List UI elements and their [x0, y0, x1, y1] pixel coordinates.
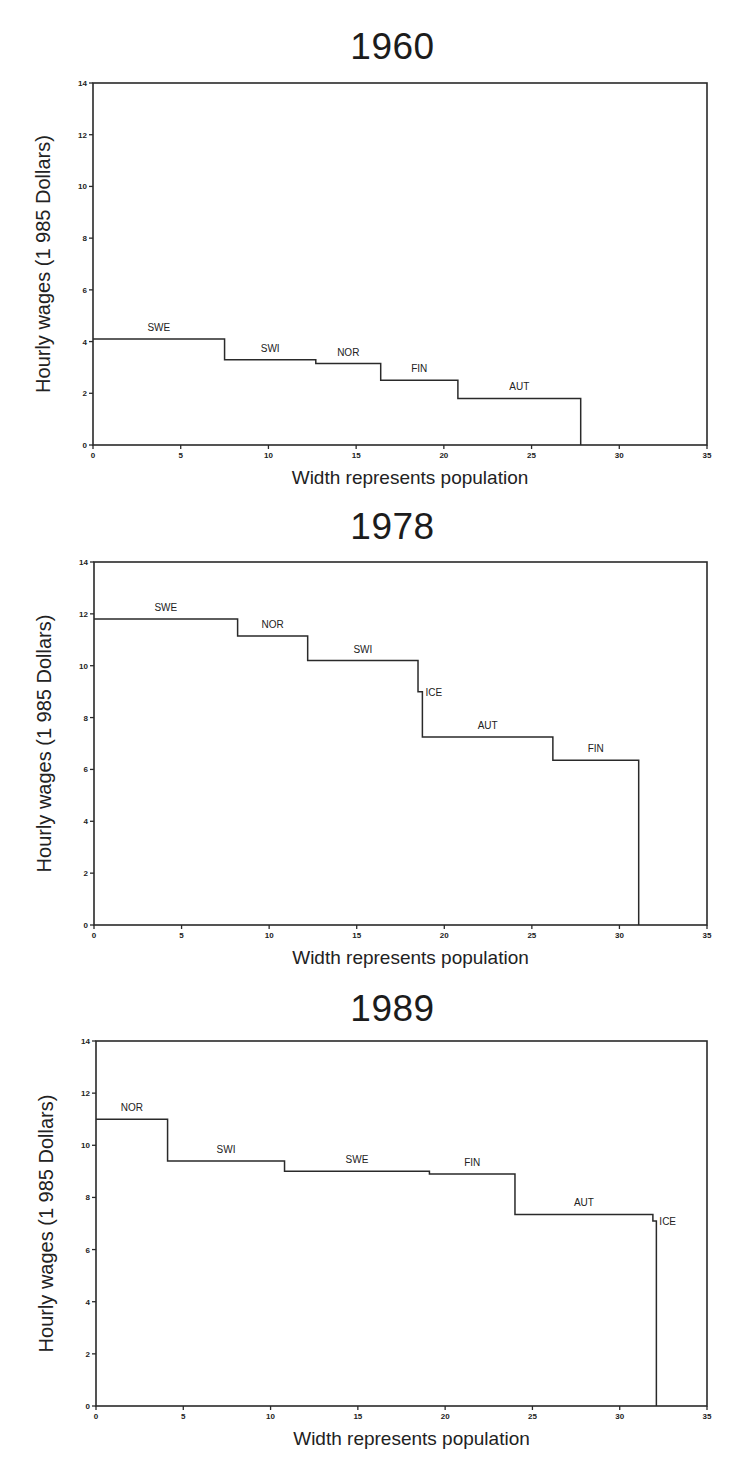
x-tick-label: 35	[703, 451, 712, 460]
x-axis: 05101520253035	[94, 1406, 712, 1421]
x-tick-label: 5	[179, 931, 184, 940]
y-tick-label: 14	[79, 558, 88, 567]
segment-label-swe: SWE	[154, 602, 177, 613]
x-tick-label: 20	[440, 931, 449, 940]
y-tick-label: 4	[84, 817, 89, 826]
y-tick-label: 0	[83, 441, 88, 450]
x-tick-label: 0	[91, 451, 96, 460]
plot-frame	[93, 83, 707, 445]
x-tick-label: 5	[181, 1412, 186, 1421]
chart-panel-1989: 1989 0246810121405101520253035Hourly wag…	[0, 961, 733, 1461]
x-tick-label: 25	[527, 451, 536, 460]
y-tick-label: 8	[83, 234, 88, 243]
y-tick-label: 6	[84, 765, 89, 774]
y-tick-label: 4	[86, 1298, 91, 1307]
y-tick-label: 14	[78, 79, 87, 88]
wage-step-line	[96, 1119, 656, 1406]
segment-label-nor: NOR	[121, 1102, 143, 1113]
segment-label-aut: AUT	[478, 720, 498, 731]
chart-panel-1960: 1960 0246810121405101520253035Hourly wag…	[0, 0, 733, 490]
step-chart-svg: 0246810121405101520253035Hourly wages (1…	[0, 480, 733, 970]
x-tick-label: 20	[439, 451, 448, 460]
step-chart-svg: 0246810121405101520253035Hourly wages (1…	[0, 0, 733, 490]
segment-label-nor: NOR	[262, 619, 284, 630]
y-axis-label: Hourly wages (1 985 Dollars)	[35, 1095, 57, 1353]
x-tick-label: 35	[703, 1412, 712, 1421]
segment-label-swi: SWI	[353, 644, 372, 655]
segment-label-fin: FIN	[464, 1157, 480, 1168]
y-tick-label: 10	[78, 182, 87, 191]
y-tick-label: 2	[83, 389, 88, 398]
x-axis-label: Width represents population	[293, 1428, 530, 1449]
y-tick-label: 0	[84, 921, 89, 930]
y-tick-label: 2	[86, 1350, 91, 1359]
y-tick-label: 12	[78, 131, 87, 140]
plot-frame	[94, 562, 707, 925]
x-tick-label: 10	[265, 931, 274, 940]
y-tick-label: 8	[86, 1193, 91, 1202]
x-tick-label: 0	[94, 1412, 99, 1421]
y-axis: 02468101214	[79, 558, 94, 930]
segment-label-nor: NOR	[337, 347, 359, 358]
y-tick-label: 4	[83, 338, 88, 347]
x-tick-label: 0	[92, 931, 97, 940]
x-axis: 05101520253035	[92, 925, 712, 940]
y-tick-label: 12	[79, 610, 88, 619]
x-tick-label: 5	[178, 451, 183, 460]
x-tick-label: 30	[615, 451, 624, 460]
segment-label-ice: ICE	[659, 1216, 676, 1227]
segment-label-fin: FIN	[411, 363, 427, 374]
y-tick-label: 8	[84, 714, 89, 723]
segment-label-swe: SWE	[346, 1154, 369, 1165]
segment-label-swi: SWI	[217, 1144, 236, 1155]
x-axis: 05101520253035	[91, 445, 712, 460]
x-tick-label: 15	[352, 931, 361, 940]
x-tick-label: 10	[266, 1412, 275, 1421]
y-tick-label: 2	[84, 869, 89, 878]
x-tick-label: 15	[353, 1412, 362, 1421]
y-axis-label: Hourly wages (1 985 Dollars)	[32, 135, 54, 393]
y-axis: 02468101214	[78, 79, 93, 450]
wage-step-line	[94, 619, 639, 925]
y-tick-label: 12	[81, 1089, 90, 1098]
y-axis-label: Hourly wages (1 985 Dollars)	[33, 615, 55, 873]
x-tick-label: 10	[264, 451, 273, 460]
segment-label-fin: FIN	[588, 743, 604, 754]
y-axis: 02468101214	[81, 1037, 96, 1411]
segment-label-ice: ICE	[425, 687, 442, 698]
x-tick-label: 15	[352, 451, 361, 460]
x-tick-label: 20	[441, 1412, 450, 1421]
chart-panel-1978: 1978 0246810121405101520253035Hourly wag…	[0, 480, 733, 970]
segment-label-swi: SWI	[261, 343, 280, 354]
x-tick-label: 25	[527, 931, 536, 940]
x-tick-label: 25	[528, 1412, 537, 1421]
y-tick-label: 0	[86, 1402, 91, 1411]
y-tick-label: 10	[79, 662, 88, 671]
y-tick-label: 6	[86, 1246, 91, 1255]
x-tick-label: 30	[615, 1412, 624, 1421]
y-tick-label: 6	[83, 286, 88, 295]
y-tick-label: 14	[81, 1037, 90, 1046]
segment-label-swe: SWE	[147, 322, 170, 333]
x-tick-label: 35	[703, 931, 712, 940]
plot-frame	[96, 1041, 707, 1406]
segment-label-aut: AUT	[574, 1197, 594, 1208]
y-tick-label: 10	[81, 1141, 90, 1150]
step-chart-svg: 0246810121405101520253035Hourly wages (1…	[0, 961, 733, 1461]
segment-label-aut: AUT	[509, 381, 529, 392]
x-tick-label: 30	[615, 931, 624, 940]
